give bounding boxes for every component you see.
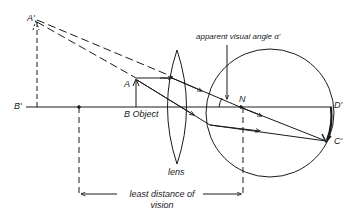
label-d-prime: D'	[334, 101, 342, 110]
retinal-image	[327, 107, 332, 140]
label-c-prime: C'	[334, 137, 342, 146]
label-a-prime: A'	[27, 14, 35, 23]
label-vision: vision	[122, 201, 202, 210]
label-b-prime: B'	[14, 102, 22, 111]
dashed-ray-1	[37, 20, 173, 77]
dashed-ray-2	[37, 22, 136, 78]
label-least-distance: least distance of	[122, 190, 202, 199]
label-apparent-visual-angle: apparent visual angle α'	[196, 33, 280, 41]
eye	[206, 49, 334, 177]
label-a: A	[124, 80, 130, 89]
optics-diagram: A' B' A B Object apparent visual angle α…	[0, 0, 352, 220]
diagram-drawing	[0, 0, 352, 220]
angle-arc	[219, 98, 222, 107]
label-lens: lens	[168, 168, 185, 177]
label-n: N	[239, 95, 246, 104]
label-b-object: B Object	[124, 110, 159, 119]
